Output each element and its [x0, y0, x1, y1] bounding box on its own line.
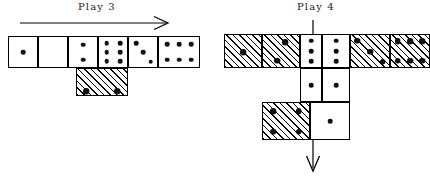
pip — [396, 58, 401, 63]
panel-play-3: Play 3 — [0, 0, 211, 192]
pip — [134, 41, 139, 46]
pip — [271, 109, 276, 114]
pip — [177, 58, 182, 63]
pip — [81, 58, 86, 63]
pip — [334, 83, 339, 88]
domino-half-1pip-bottom — [310, 102, 350, 140]
domino-half-1pip-mid-right — [322, 68, 350, 102]
pip — [104, 41, 109, 46]
pip — [408, 39, 413, 44]
pip — [84, 89, 89, 94]
domino-half-3pip-col-left — [300, 34, 322, 68]
pip — [334, 59, 339, 64]
pip — [309, 38, 314, 43]
pip — [177, 42, 182, 47]
pip — [165, 58, 170, 63]
domino-half-blank — [38, 36, 68, 68]
pip — [283, 40, 288, 45]
domino-half-4pip-shaded — [262, 102, 310, 140]
pip — [118, 50, 123, 55]
pip — [149, 59, 154, 64]
domino-half-shaded-new — [76, 68, 128, 96]
pip — [141, 50, 146, 55]
pip — [21, 50, 26, 55]
pip — [118, 41, 123, 46]
pip — [115, 89, 120, 94]
pip — [118, 59, 123, 64]
pip — [189, 42, 194, 47]
caption-play-3: Play 3 — [78, 1, 116, 12]
domino-half-1pip-shaded — [224, 34, 262, 68]
domino-half-2pip — [68, 36, 98, 68]
caption-play-4: Play 4 — [297, 1, 335, 12]
direction-arrow-right-icon — [20, 16, 172, 30]
pip — [355, 38, 360, 43]
pip — [334, 49, 339, 54]
pip — [275, 58, 280, 63]
domino-half-6pip-shaded — [390, 34, 430, 68]
pip — [420, 58, 425, 63]
pip — [380, 60, 385, 65]
pip — [420, 39, 425, 44]
pip — [334, 38, 339, 43]
pip — [328, 119, 333, 124]
domino-half-2pip-shaded — [262, 34, 300, 68]
pip — [104, 50, 109, 55]
domino-half-3pip-col-right — [322, 34, 350, 68]
pip — [309, 59, 314, 64]
pip — [189, 58, 194, 63]
pip — [165, 42, 170, 47]
pip — [241, 50, 246, 55]
domino-half-3pip-col — [98, 36, 128, 68]
pip — [297, 109, 302, 114]
domino-half-6pip — [158, 36, 200, 68]
domino-half-3pip-diagonal-shaded — [350, 34, 390, 68]
pip — [271, 130, 276, 135]
panel-play-4: Play 4 — [211, 0, 421, 192]
pip — [297, 130, 302, 135]
domino-half-1pip-mid-left — [300, 68, 322, 102]
pip — [81, 43, 86, 48]
domino-half-3pip-diagonal — [128, 36, 158, 68]
pip — [368, 49, 373, 54]
pip — [309, 49, 314, 54]
pip — [408, 58, 413, 63]
pip — [309, 83, 314, 88]
domino-half-1pip — [8, 36, 38, 68]
pip — [104, 59, 109, 64]
pip — [396, 39, 401, 44]
